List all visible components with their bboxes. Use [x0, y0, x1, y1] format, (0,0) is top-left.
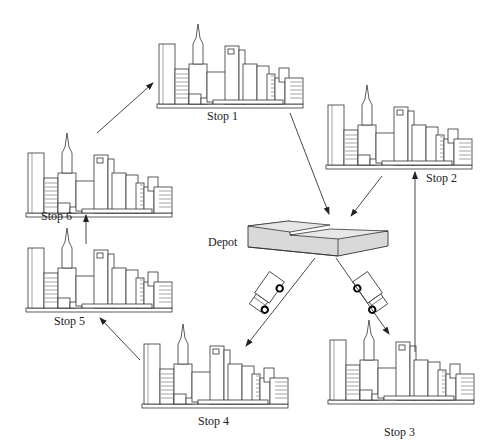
depot-icon [248, 221, 388, 256]
truck-icon-right [350, 272, 389, 315]
stop-4-label: Stop 4 [198, 414, 229, 428]
truck-icon-left [248, 272, 287, 315]
stop-6-skyline [26, 133, 172, 217]
stop-3-skyline [328, 320, 474, 404]
stop-6-label: Stop 6 [41, 209, 72, 223]
stop-1-label: Stop 1 [207, 109, 238, 123]
depot-label: Depot [208, 235, 237, 249]
stop-2-skyline [326, 85, 472, 169]
stop-4-skyline [142, 324, 288, 408]
routing-diagram: Stop 1 Stop 2 Stop 3 Stop 4 Stop 5 Stop … [0, 0, 494, 446]
stop-2-label: Stop 2 [426, 171, 457, 185]
stop-3-label: Stop 3 [384, 425, 415, 439]
stop-1-skyline [157, 24, 303, 108]
stop-5-skyline [26, 228, 172, 312]
stop-5-label: Stop 5 [54, 314, 85, 328]
